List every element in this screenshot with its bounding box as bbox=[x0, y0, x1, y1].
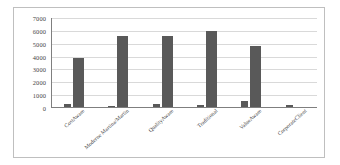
chart-container: 01000200030004000500060007000 CostAwareM… bbox=[13, 7, 325, 158]
bar bbox=[162, 36, 173, 107]
y-axis-tick-label: 2000 bbox=[33, 79, 46, 86]
bar-group bbox=[52, 18, 96, 107]
bar bbox=[108, 106, 115, 107]
x-axis-tick-label: Traditional bbox=[197, 109, 220, 130]
x-axis-tick-label: ValueAware bbox=[240, 109, 265, 132]
bar bbox=[153, 104, 160, 107]
bar bbox=[250, 46, 261, 107]
bar bbox=[241, 101, 248, 107]
y-axis-tick-label: 6000 bbox=[33, 27, 46, 34]
y-axis-tick-label: 1000 bbox=[33, 92, 46, 99]
bar bbox=[197, 105, 204, 107]
x-axis-tick-label: CorporateClient bbox=[277, 109, 308, 138]
bar bbox=[73, 58, 84, 107]
x-axis: CostAwareModerne Martina/MartinQualityAw… bbox=[51, 109, 317, 159]
bar-group bbox=[229, 18, 273, 107]
y-axis-tick-label: 3000 bbox=[33, 66, 46, 73]
bar-group bbox=[185, 18, 229, 107]
bar bbox=[64, 104, 71, 107]
plot-area bbox=[51, 18, 317, 108]
bar-series-layer bbox=[52, 18, 317, 107]
bar bbox=[117, 36, 128, 107]
y-axis-tick-label: 5000 bbox=[33, 40, 46, 47]
x-axis-tick-label: CostAware bbox=[64, 109, 87, 130]
x-axis-tick-label: Moderne Martina/Martin bbox=[85, 109, 132, 152]
y-axis-tick-label: 7000 bbox=[33, 15, 46, 22]
y-axis: 01000200030004000500060007000 bbox=[14, 18, 49, 108]
bar bbox=[286, 105, 293, 107]
y-axis-tick-label: 0 bbox=[43, 105, 46, 112]
bar-group bbox=[141, 18, 185, 107]
bar-group bbox=[274, 18, 318, 107]
bar-group bbox=[96, 18, 140, 107]
x-axis-tick-label: QualityAware bbox=[148, 109, 176, 135]
y-axis-tick-label: 4000 bbox=[33, 53, 46, 60]
bar bbox=[206, 31, 217, 108]
